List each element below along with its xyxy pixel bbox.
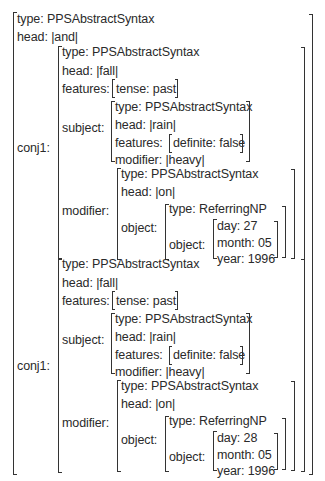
conj2-subject-modifier: modifier: |heavy| [115,365,205,379]
conj2-modifier-type: type: PPSAbstractSyntax [121,379,258,393]
conj1-right-bracket [301,47,305,260]
conj1-date-day: day: 27 [217,219,257,233]
conj1-subject-features-value: definite: false [173,136,245,150]
conj2-subject-features-left-bracket [169,346,172,365]
conj1-referringnp-right-bracket [282,206,286,258]
conj2-features-left-bracket [112,291,115,310]
conj1-date-year: year: 1996 [217,252,275,266]
root-type: type: PPSAbstractSyntax [17,12,154,26]
conj2-subject-features-right-bracket [240,346,243,365]
conj2-referringnp-right-bracket [282,418,286,470]
conj2-features-key: features: [62,294,110,308]
conj2-subject-head: head: |rain| [115,330,176,344]
conj2-subject-features-key: features: [115,348,163,362]
conj1-subject-features-right-bracket [240,134,243,153]
conj2-subject-key: subject: [62,333,104,347]
root-right-bracket [309,14,313,475]
conj1-features-right-bracket [175,79,178,98]
conj2-features-right-bracket [175,291,178,310]
conj2-date-year: year: 1996 [217,464,275,478]
conj1-modifier-key: modifier: [62,204,109,218]
conj1-subject-head: head: |rain| [115,118,176,132]
conj1-type: type: PPSAbstractSyntax [62,45,199,59]
conj1-modifier-head: head: |on| [121,185,175,199]
conj2-subject-features-value: definite: false [173,348,245,362]
conj2-date-month: month: 05 [217,448,272,462]
conj1-subject-key: subject: [62,121,104,135]
conj2-modifier-object-key: object: [121,433,157,447]
conj1-left-bracket [58,46,62,260]
conj1-label-first: conj1: [17,141,50,155]
conj2-date-day: day: 28 [217,431,257,445]
conj2-modifier-head: head: |on| [121,397,175,411]
conj1-modifier-right-bracket [291,169,295,259]
conj1-features-key: features: [62,82,110,96]
conj1-subject-features-key: features: [115,136,163,150]
conj1-subject-type: type: PPSAbstractSyntax [115,100,252,114]
conj2-referringnp-type: type: ReferringNP [169,414,267,428]
root-left-bracket [13,12,17,475]
conj2-right-bracket [301,259,305,472]
conj1-head: head: |fall| [62,64,118,78]
conj1-modifier-left-bracket [117,168,121,260]
conj1-referringnp-type: type: ReferringNP [169,202,267,216]
conj2-modifier-right-bracket [291,381,295,471]
conj1-features-value: tense: past [116,82,176,96]
conj2-referringnp-object-key: object: [169,450,205,464]
conj1-label-second: conj1: [17,359,50,373]
conj2-modifier-key: modifier: [62,416,109,430]
conj2-features-value: tense: past [116,294,176,308]
conj2-type: type: PPSAbstractSyntax [62,257,199,271]
conj1-modifier-object-key: object: [121,221,157,235]
conj1-subject-features-left-bracket [169,134,172,153]
conj1-features-left-bracket [112,79,115,98]
root-head: head: |and| [17,30,78,44]
conj1-subject-modifier: modifier: |heavy| [115,153,205,167]
conj2-left-bracket [58,258,62,473]
conj1-modifier-type: type: PPSAbstractSyntax [121,167,258,181]
conj1-date-month: month: 05 [217,236,272,250]
feature-structure-diagram: type: PPSAbstractSyntax head: |and| conj… [0,0,325,481]
conj2-modifier-left-bracket [117,380,121,472]
conj2-head: head: |fall| [62,276,118,290]
conj1-referringnp-object-key: object: [169,238,205,252]
conj2-subject-type: type: PPSAbstractSyntax [115,312,252,326]
